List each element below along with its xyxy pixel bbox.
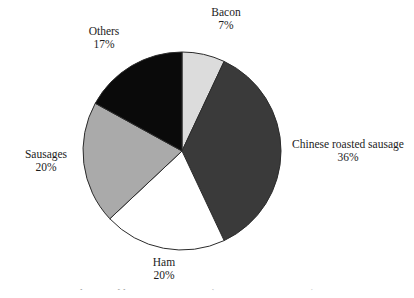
slice-label-sausages-name: Sausages	[2, 148, 90, 161]
slice-label-ham: Ham 20%	[126, 256, 202, 282]
slice-label-bacon-name: Bacon	[186, 6, 266, 19]
slice-label-ham-percent: 20%	[126, 269, 202, 282]
figure-caption-clipped: 2-2 Chinese meat product types in Chines…	[0, 289, 414, 298]
slice-label-others-percent: 17%	[62, 38, 146, 51]
slice-label-chinese-roasted-sausage-name: Chinese roasted sausage	[282, 138, 414, 151]
slice-label-others: Others 17%	[62, 25, 146, 51]
slice-label-sausages-percent: 20%	[2, 161, 90, 174]
slice-label-bacon: Bacon 7%	[186, 6, 266, 32]
figure-caption-text: 2-2 Chinese meat product types in Chines…	[4, 289, 314, 291]
pie-chart-figure: Bacon 7% Chinese roasted sausage 36% Ham…	[0, 0, 414, 298]
slice-label-others-name: Others	[62, 25, 146, 38]
slice-label-bacon-percent: 7%	[186, 19, 266, 32]
slice-label-chinese-roasted-sausage: Chinese roasted sausage 36%	[282, 138, 414, 164]
slice-label-ham-name: Ham	[126, 256, 202, 269]
slice-label-sausages: Sausages 20%	[2, 148, 90, 174]
pie-slice-group	[83, 52, 281, 250]
slice-label-chinese-roasted-sausage-percent: 36%	[282, 151, 414, 164]
